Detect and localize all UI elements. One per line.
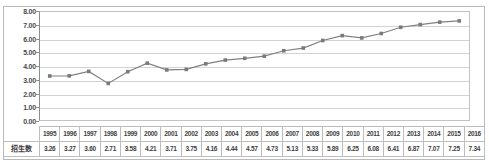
table-cell-year: 2004 [221, 127, 241, 142]
table-cell-value: 5.13 [282, 142, 302, 157]
table-cell-year: 2010 [343, 127, 363, 142]
data-point-marker [301, 46, 305, 50]
table-cell-value: 4.57 [242, 142, 262, 157]
table-cell-value: 2.71 [100, 142, 120, 157]
y-axis-tick-label: 1.00 [6, 103, 36, 112]
y-axis-tick-label: 2.00 [6, 90, 36, 99]
plot-area [39, 11, 470, 121]
chart-title [0, 0, 489, 5]
data-point-marker [282, 49, 286, 53]
y-axis-labels: 8.007.006.005.004.003.002.001.000.00 [6, 8, 36, 124]
data-point-marker [67, 74, 71, 78]
y-axis-tick-label: 0.00 [6, 117, 36, 126]
table-cell-value: 6.25 [343, 142, 363, 157]
table-cell-value: 3.75 [181, 142, 201, 157]
table-cell-value: 3.71 [161, 142, 181, 157]
table-cell-value: 3.26 [40, 142, 60, 157]
table-cell-year: 2009 [323, 127, 343, 142]
data-point-marker [106, 82, 110, 86]
table-row-header: 招生数 [3, 142, 40, 157]
data-point-marker [204, 62, 208, 66]
data-point-marker [340, 34, 344, 38]
table-cell-value: 3.60 [80, 142, 100, 157]
data-point-marker [243, 57, 247, 61]
table-cell-year: 2016 [464, 127, 484, 142]
data-point-marker [262, 54, 266, 58]
data-point-marker [457, 19, 461, 23]
table-cell-year: 2001 [161, 127, 181, 142]
table-cell-year: 1999 [120, 127, 140, 142]
table-cell-year: 1997 [80, 127, 100, 142]
table-cell-value: 3.27 [60, 142, 80, 157]
data-point-marker [184, 68, 188, 72]
data-point-marker [145, 61, 149, 65]
series-line-chart [40, 12, 469, 120]
table-cell-year: 2002 [181, 127, 201, 142]
table-cell-value: 4.16 [201, 142, 221, 157]
table-cell-value: 6.41 [383, 142, 403, 157]
data-point-marker [165, 68, 169, 72]
data-point-marker [379, 32, 383, 36]
table-cell-year: 2011 [363, 127, 383, 142]
y-axis-tick-label: 5.00 [6, 48, 36, 57]
data-point-marker [438, 20, 442, 24]
table-cell-year: 2003 [201, 127, 221, 142]
data-point-marker [399, 25, 403, 29]
table-cell-value: 4.44 [221, 142, 241, 157]
y-axis-tick-label: 3.00 [6, 76, 36, 85]
table-cell-year: 1996 [60, 127, 80, 142]
y-axis-tick-label: 4.00 [6, 62, 36, 71]
data-point-marker [418, 23, 422, 27]
y-axis-tick-mark [35, 121, 39, 122]
data-point-marker [360, 36, 364, 40]
table-cell-value: 5.33 [302, 142, 322, 157]
table-cell-value: 7.07 [424, 142, 444, 157]
table-row-years: 1995199619971998199920002001200220032004… [3, 127, 485, 142]
table-cell-value: 4.21 [141, 142, 161, 157]
table-cell-year: 2013 [403, 127, 423, 142]
data-table: 1995199619971998199920002001200220032004… [3, 126, 485, 157]
table-cell-value: 5.89 [323, 142, 343, 157]
table-row-values: 招生数3.263.273.602.713.584.213.713.754.164… [3, 142, 485, 157]
table-cell-value: 7.25 [444, 142, 464, 157]
table-cell-year: 2008 [302, 127, 322, 142]
table-cell-year: 1998 [100, 127, 120, 142]
series-line [50, 21, 460, 84]
table-cell-year: 2005 [242, 127, 262, 142]
table-cell-year: 2014 [424, 127, 444, 142]
table-cell-year: 2006 [262, 127, 282, 142]
table-cell-year: 1995 [40, 127, 60, 142]
data-point-marker [321, 39, 325, 43]
table-cell-value: 6.08 [363, 142, 383, 157]
table-cell-value: 4.73 [262, 142, 282, 157]
table-cell-value: 7.34 [464, 142, 484, 157]
data-point-marker [223, 58, 227, 62]
y-axis-tick-label: 8.00 [6, 7, 36, 16]
table-cell-value: 6.87 [403, 142, 423, 157]
table-cell-year: 2012 [383, 127, 403, 142]
table-cell-value: 3.58 [120, 142, 140, 157]
table-cell-year: 2000 [141, 127, 161, 142]
y-axis-tick-label: 7.00 [6, 21, 36, 30]
table-corner-cell [3, 127, 40, 142]
y-axis-tick-label: 6.00 [6, 35, 36, 44]
data-point-marker [48, 74, 52, 78]
chart-figure: 8.007.006.005.004.003.002.001.000.00 199… [0, 0, 489, 166]
table-cell-year: 2015 [444, 127, 464, 142]
table-cell-year: 2007 [282, 127, 302, 142]
data-point-marker [126, 70, 130, 74]
data-point-marker [87, 70, 91, 74]
